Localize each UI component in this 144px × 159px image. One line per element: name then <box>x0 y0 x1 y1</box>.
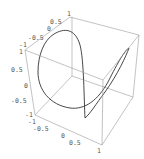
curve <box>38 30 129 118</box>
3d-plot: 1 0.5 0 -0.5 -1 1 0.5 0 -0.5 -1 -1 -0.5 … <box>0 0 144 159</box>
svg-text:0: 0 <box>47 25 51 33</box>
svg-text:0: 0 <box>61 132 65 140</box>
z-axis-ticks: 1 0.5 0 -0.5 -1 <box>11 48 33 119</box>
x-axis-ticks: -1 -0.5 0 0.5 1 <box>28 118 101 155</box>
svg-text:0.5: 0.5 <box>50 18 62 26</box>
svg-text:-0.5: -0.5 <box>33 125 49 133</box>
svg-text:1: 1 <box>97 147 101 155</box>
svg-text:0.5: 0.5 <box>11 66 23 74</box>
svg-text:-0.5: -0.5 <box>28 34 44 42</box>
svg-text:1: 1 <box>19 48 23 56</box>
svg-text:0.5: 0.5 <box>69 139 81 147</box>
svg-text:1: 1 <box>67 10 71 18</box>
svg-text:-0.5: -0.5 <box>11 97 27 105</box>
svg-text:0: 0 <box>24 82 28 90</box>
